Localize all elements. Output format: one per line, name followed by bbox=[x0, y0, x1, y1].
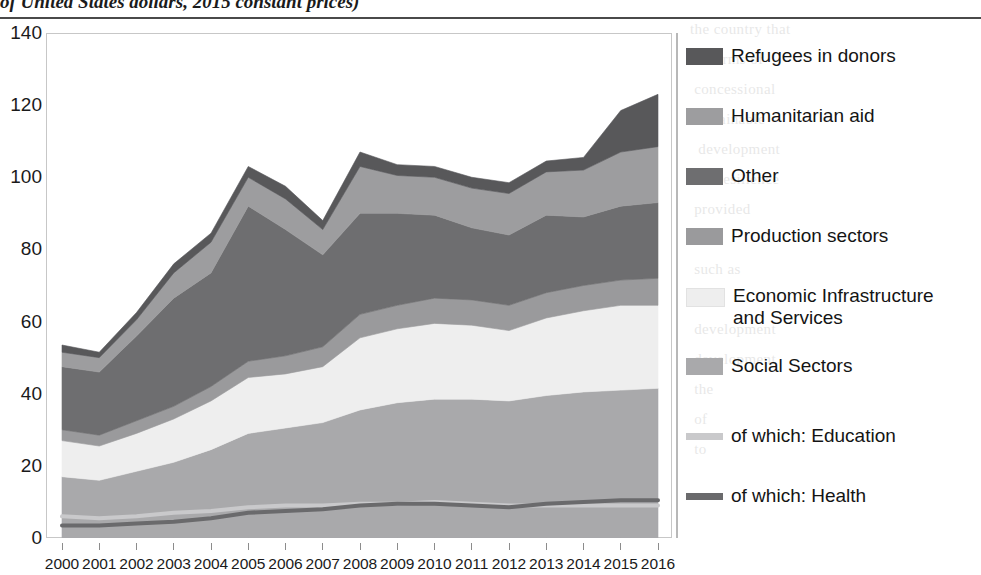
legend-label-of-which-education: of which: Education bbox=[731, 425, 896, 447]
x-tick-mark-2004 bbox=[211, 543, 212, 550]
legend-swatch-social-sectors bbox=[686, 358, 723, 375]
x-tick-2005: 2005 bbox=[231, 555, 265, 573]
x-tick-2003: 2003 bbox=[157, 555, 191, 573]
x-tick-mark-2016 bbox=[658, 543, 659, 550]
legend-label-refugees-in-donors: Refugees in donors bbox=[731, 45, 896, 67]
x-tick-2008: 2008 bbox=[343, 555, 377, 573]
x-tick-mark-2010 bbox=[434, 543, 435, 550]
legend-item-of-which-health[interactable]: of which: Health bbox=[686, 485, 866, 507]
x-tick-mark-2014 bbox=[583, 543, 584, 550]
plot-area bbox=[46, 33, 672, 538]
x-tick-mark-2001 bbox=[99, 543, 100, 550]
x-tick-2014: 2014 bbox=[566, 555, 600, 573]
x-tick-2009: 2009 bbox=[380, 555, 414, 573]
legend-label-other: Other bbox=[731, 165, 779, 187]
x-tick-2000: 2000 bbox=[45, 555, 79, 573]
chart-title: of United States dollars, 2015 constant … bbox=[0, 0, 359, 13]
x-tick-mark-2006 bbox=[285, 543, 286, 550]
x-axis: 2000200120022003200420052006200720082009… bbox=[0, 543, 700, 573]
x-tick-mark-2005 bbox=[248, 543, 249, 550]
x-tick-2015: 2015 bbox=[604, 555, 638, 573]
legend-swatch-of-which-health bbox=[686, 493, 723, 500]
x-tick-mark-2011 bbox=[471, 543, 472, 550]
legend-item-of-which-education[interactable]: of which: Education bbox=[686, 425, 896, 447]
legend-label-humanitarian-aid: Humanitarian aid bbox=[731, 105, 875, 127]
x-tick-mark-2009 bbox=[397, 543, 398, 550]
x-tick-2013: 2013 bbox=[529, 555, 563, 573]
y-tick-60: 60 bbox=[21, 311, 42, 333]
legend-swatch-refugees-in-donors bbox=[686, 48, 723, 65]
x-tick-2010: 2010 bbox=[417, 555, 451, 573]
x-tick-mark-2012 bbox=[509, 543, 510, 550]
x-tick-2007: 2007 bbox=[306, 555, 340, 573]
y-tick-80: 80 bbox=[21, 238, 42, 260]
x-tick-2001: 2001 bbox=[82, 555, 116, 573]
x-tick-2012: 2012 bbox=[492, 555, 526, 573]
legend-label-production-sectors: Production sectors bbox=[731, 225, 888, 247]
legend-item-humanitarian-aid[interactable]: Humanitarian aid bbox=[686, 105, 875, 127]
legend-swatch-of-which-education bbox=[686, 433, 723, 440]
y-tick-120: 120 bbox=[10, 94, 42, 116]
x-tick-2011: 2011 bbox=[455, 555, 488, 573]
legend-item-production-sectors[interactable]: Production sectors bbox=[686, 225, 888, 247]
x-tick-mark-2000 bbox=[62, 543, 63, 550]
x-tick-2016: 2016 bbox=[641, 555, 675, 573]
legend-label-economic-infrastructure-and-services: Economic Infrastructure and Services bbox=[733, 285, 934, 329]
x-tick-mark-2007 bbox=[322, 543, 323, 550]
legend-label-of-which-health: of which: Health bbox=[731, 485, 866, 507]
chart-legend: Refugees in donorsHumanitarian aidOtherP… bbox=[676, 33, 981, 538]
y-tick-20: 20 bbox=[21, 455, 42, 477]
stacked-area-chart bbox=[46, 33, 672, 538]
x-tick-2006: 2006 bbox=[268, 555, 302, 573]
legend-swatch-production-sectors bbox=[686, 228, 723, 245]
legend-label-social-sectors: Social Sectors bbox=[731, 355, 852, 377]
x-tick-2002: 2002 bbox=[119, 555, 153, 573]
y-tick-40: 40 bbox=[21, 383, 42, 405]
legend-swatch-other bbox=[686, 168, 723, 185]
x-tick-mark-2015 bbox=[620, 543, 621, 550]
x-tick-mark-2008 bbox=[360, 543, 361, 550]
y-tick-100: 100 bbox=[10, 166, 42, 188]
legend-item-other[interactable]: Other bbox=[686, 165, 779, 187]
legend-swatch-economic-infrastructure-and-services bbox=[686, 288, 725, 307]
legend-item-social-sectors[interactable]: Social Sectors bbox=[686, 355, 852, 377]
chart-title-strip: of United States dollars, 2015 constant … bbox=[0, 0, 981, 16]
y-tick-140: 140 bbox=[10, 22, 42, 44]
x-tick-mark-2002 bbox=[136, 543, 137, 550]
y-axis: 020406080100120140 bbox=[0, 0, 42, 575]
x-tick-mark-2013 bbox=[546, 543, 547, 550]
x-tick-mark-2003 bbox=[173, 543, 174, 550]
legend-item-refugees-in-donors[interactable]: Refugees in donors bbox=[686, 45, 896, 67]
legend-item-economic-infrastructure-and-services[interactable]: Economic Infrastructure and Services bbox=[686, 285, 934, 329]
title-divider-rule bbox=[0, 17, 981, 19]
legend-swatch-humanitarian-aid bbox=[686, 108, 723, 125]
chart-page: of United States dollars, 2015 constant … bbox=[0, 0, 981, 575]
x-tick-2004: 2004 bbox=[194, 555, 228, 573]
